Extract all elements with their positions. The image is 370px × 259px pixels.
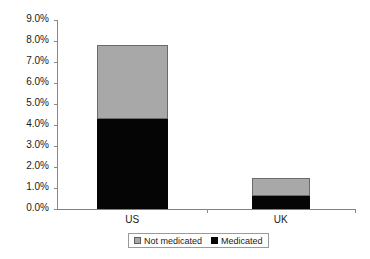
bar-segment-medicated (97, 119, 168, 209)
y-axis-tick-label: 5.0% (26, 97, 49, 108)
y-axis-tick-mark (54, 209, 58, 210)
chart-legend: Not medicated Medicated (128, 233, 269, 248)
bar-uk (252, 178, 310, 210)
y-axis-tick-label: 4.0% (26, 118, 49, 129)
y-axis-tick-mark (54, 104, 58, 105)
y-axis-tick-mark (54, 188, 58, 189)
y-axis-tick-label: 6.0% (26, 76, 49, 87)
x-axis-line (57, 209, 355, 210)
x-axis-tick-label: UK (251, 214, 311, 226)
legend-label: Not medicated (144, 236, 202, 246)
x-axis-tick-mark (207, 209, 208, 213)
legend-item: Not medicated (134, 236, 202, 246)
legend-label: Medicated (221, 236, 263, 246)
y-axis-tick-mark (54, 146, 58, 147)
y-axis-tick-label: 8.0% (26, 34, 49, 45)
stacked-bar-chart: 9.0%8.0%7.0%6.0%5.0%4.0%3.0%2.0%1.0%0.0%… (0, 0, 370, 259)
y-axis-tick-mark (54, 20, 58, 21)
y-axis-tick-label: 9.0% (26, 13, 49, 24)
y-axis-tick-label: 1.0% (26, 181, 49, 192)
bar-segment-not-medicated (97, 45, 168, 119)
y-axis-tick-label: 3.0% (26, 139, 49, 150)
legend-swatch-not-medicated-icon (134, 237, 141, 244)
y-axis-tick-mark (54, 125, 58, 126)
legend-item: Medicated (211, 236, 263, 246)
bar-segment-not-medicated (252, 178, 310, 197)
bar-us (97, 45, 168, 209)
y-axis-line (57, 20, 58, 210)
x-axis-tick-label: US (102, 214, 162, 226)
y-axis-tick-mark (54, 83, 58, 84)
bar-segment-medicated (252, 196, 310, 209)
y-axis-tick-mark (54, 41, 58, 42)
y-axis-tick-label: 7.0% (26, 55, 49, 66)
y-axis-tick-label: 2.0% (26, 160, 49, 171)
y-axis-tick-mark (54, 62, 58, 63)
y-axis-tick-label: 0.0% (26, 202, 49, 213)
legend-swatch-medicated-icon (211, 237, 218, 244)
x-axis-tick-mark (355, 209, 356, 213)
y-axis-tick-mark (54, 167, 58, 168)
